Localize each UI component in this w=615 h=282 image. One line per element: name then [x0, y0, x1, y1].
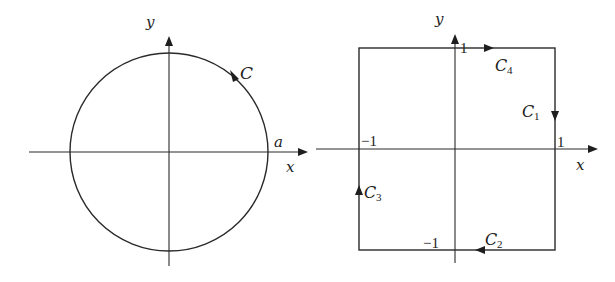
tick-y-neg-1: −1 [423, 235, 439, 251]
right-y-axis-label: y [434, 10, 444, 28]
right-x-axis-arrow-icon [588, 145, 598, 153]
segment-c1-arrow-down-icon [551, 111, 559, 121]
right-y-axis-arrow-icon [451, 34, 459, 44]
segment-label-c4: C 4 [495, 56, 513, 76]
svg-text:C: C [485, 230, 497, 249]
curve-label-c: C [240, 63, 253, 83]
svg-text:C: C [522, 102, 534, 121]
left-y-axis-arrow-icon [165, 36, 173, 46]
diagram-canvas: y x a C y x 1 1 −1 −1 C 4 C 1 [0, 0, 615, 282]
svg-text:2: 2 [497, 238, 503, 250]
svg-text:1: 1 [534, 110, 540, 122]
right-diagram-square-contour: y x 1 1 −1 −1 C 4 C 1 C 3 C 2 [316, 10, 598, 263]
tick-x-neg-1: −1 [361, 133, 377, 149]
segment-c2-arrow-left-icon [475, 246, 485, 254]
segment-c3-arrow-up-icon [355, 185, 363, 195]
tick-y-pos-1: 1 [460, 40, 468, 56]
svg-text:C: C [495, 56, 507, 75]
segment-label-c1: C 1 [522, 102, 540, 122]
segment-label-c2: C 2 [485, 230, 503, 250]
svg-text:C: C [364, 183, 376, 202]
left-diagram-circle-contour: y x a C [29, 13, 308, 266]
segment-c4-arrow-right-icon [484, 44, 494, 52]
left-y-axis-label: y [145, 13, 155, 31]
left-x-axis-label: x [286, 158, 295, 176]
tick-x-pos-1: 1 [557, 134, 565, 150]
left-x-axis-arrow-icon [298, 148, 308, 156]
svg-text:3: 3 [376, 191, 382, 203]
radius-label-a: a [274, 133, 283, 151]
right-x-axis-label: x [576, 156, 585, 174]
svg-text:4: 4 [507, 64, 513, 76]
segment-label-c3: C 3 [364, 183, 382, 203]
